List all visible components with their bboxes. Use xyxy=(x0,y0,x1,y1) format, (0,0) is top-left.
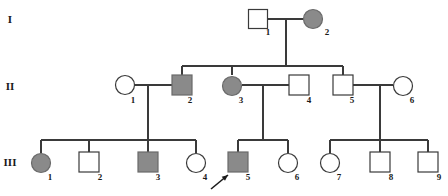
individual-number-ii-1: 1 xyxy=(131,95,136,105)
individual-number-ii-4: 4 xyxy=(307,95,312,105)
pedigree-canvas: 12123456123456789IIIIII xyxy=(0,0,448,196)
individual-number-iii-9: 9 xyxy=(437,172,442,182)
individual-iii-5-male-affected[interactable] xyxy=(228,152,248,172)
individual-ii-3-female-affected[interactable] xyxy=(223,77,242,96)
individual-number-iii-1: 1 xyxy=(48,172,53,182)
individual-symbols-layer xyxy=(32,10,439,173)
individual-iii-3-male-affected[interactable] xyxy=(138,152,158,172)
individual-iii-6-female-unaffected[interactable] xyxy=(279,154,298,173)
individual-i-1-male-unaffected[interactable] xyxy=(249,10,268,29)
individual-iii-7-female-unaffected[interactable] xyxy=(321,154,340,173)
individual-ii-6-female-unaffected[interactable] xyxy=(394,77,413,96)
individual-number-iii-4: 4 xyxy=(203,172,208,182)
individual-number-ii-3: 3 xyxy=(239,95,244,105)
individual-number-iii-5: 5 xyxy=(246,172,251,182)
individual-number-ii-5: 5 xyxy=(350,95,355,105)
individual-number-i-1: 1 xyxy=(266,27,271,37)
individual-number-iii-8: 8 xyxy=(389,172,394,182)
individual-iii-8-male-unaffected[interactable] xyxy=(370,152,390,172)
individual-number-ii-6: 6 xyxy=(410,95,415,105)
proband-arrow-layer xyxy=(211,175,228,189)
individual-ii-4-male-unaffected[interactable] xyxy=(289,75,309,95)
individual-number-iii-7: 7 xyxy=(337,172,342,182)
individual-iii-9-male-unaffected[interactable] xyxy=(418,152,438,172)
individual-iii-2-male-unaffected[interactable] xyxy=(79,152,99,172)
individual-ii-2-male-affected[interactable] xyxy=(172,75,192,95)
individual-number-iii-2: 2 xyxy=(98,172,103,182)
individual-ii-1-female-unaffected[interactable] xyxy=(116,76,135,95)
generation-label-i: I xyxy=(8,13,12,25)
individual-iii-4-female-unaffected[interactable] xyxy=(187,154,206,173)
generation-label-iii: III xyxy=(4,156,17,168)
individual-ii-5-male-unaffected[interactable] xyxy=(333,75,353,95)
individual-iii-1-female-affected[interactable] xyxy=(32,154,51,173)
individual-number-ii-2: 2 xyxy=(188,95,193,105)
individual-i-2-female-affected[interactable] xyxy=(304,10,323,29)
individual-number-i-2: 2 xyxy=(325,27,330,37)
pedigree-chart: 12123456123456789IIIIII xyxy=(0,0,448,196)
individual-number-iii-3: 3 xyxy=(156,172,161,182)
individual-number-iii-6: 6 xyxy=(295,172,300,182)
generation-label-ii: II xyxy=(6,80,15,92)
